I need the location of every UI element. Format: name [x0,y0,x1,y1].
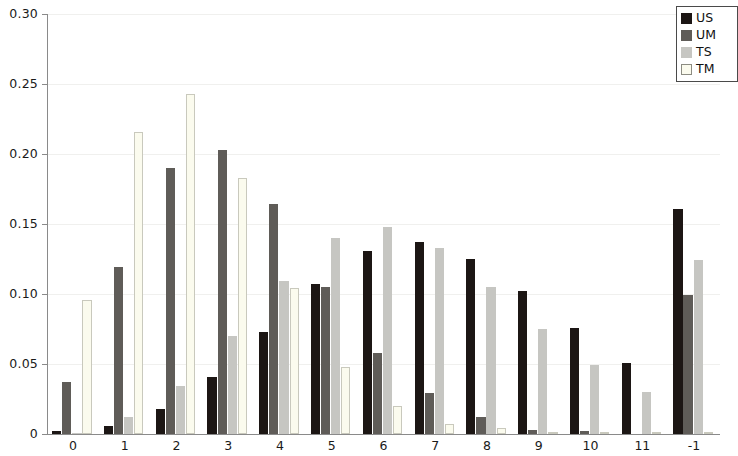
bar-group [466,14,506,434]
bar-ts-4 [279,281,288,434]
bar-ts-9 [538,329,547,434]
bar-us--1 [673,209,682,434]
bar-group [259,14,299,434]
bar-us-9 [518,291,527,434]
bar-tm-9 [548,432,557,434]
series-swatch-um-icon [681,30,692,41]
bar-us-3 [207,377,216,434]
y-tick-mark [42,434,47,435]
bar-um--1 [683,295,692,434]
x-tick-label: 9 [513,440,565,453]
bar-ts-10 [590,365,599,434]
x-tick-label: 7 [409,440,461,453]
bar-group [311,14,351,434]
bar-um-9 [528,430,537,434]
y-tick-label: 0.25 [9,78,38,91]
legend-item-tm[interactable]: TM [681,61,734,78]
bar-group [104,14,144,434]
bar-group [570,14,610,434]
x-tick-label: 1 [99,440,151,453]
bar-tm-8 [497,428,506,434]
x-tick-label: 0 [47,440,99,453]
x-tick-label: 5 [306,440,358,453]
bar-tm-11 [652,432,661,434]
bar-us-4 [259,332,268,434]
y-tick-label: 0.15 [9,218,38,231]
bar-tm-2 [186,94,195,434]
x-tick-label: -1 [668,440,720,453]
bar-us-0 [52,431,61,434]
bar-ts-5 [331,238,340,434]
x-tick-label: 8 [461,440,513,453]
bar-ts-3 [228,336,237,434]
bar-group [52,14,92,434]
bar-um-6 [373,353,382,434]
legend-label: UM [696,29,716,42]
bar-us-7 [415,242,424,434]
bar-us-1 [104,426,113,434]
bar-ts-11 [642,392,651,434]
bar-um-1 [114,267,123,434]
bar-um-4 [269,204,278,434]
bar-um-0 [62,382,71,434]
bar-group [363,14,403,434]
y-tick-label: 0.05 [9,358,38,371]
bar-ts-1 [124,417,133,434]
bar-us-5 [311,284,320,434]
bar-tm-6 [393,406,402,434]
bar-um-5 [321,287,330,434]
bar-us-8 [466,259,475,434]
legend-item-us[interactable]: US [681,10,734,27]
bar-group [156,14,196,434]
bar-ts-0 [72,433,81,434]
plot-area [47,14,720,434]
bar-tm-1 [134,132,143,434]
bar-ts-8 [486,287,495,434]
x-tick-label: 6 [358,440,410,453]
x-tick-label: 3 [202,440,254,453]
bar-tm--1 [704,432,713,434]
bar-group [518,14,558,434]
bar-us-11 [622,363,631,434]
legend-label: TS [696,46,712,59]
bar-ts-2 [176,386,185,434]
bar-tm-5 [341,367,350,434]
bar-ts-7 [435,248,444,434]
legend-label: TM [696,63,714,76]
legend: USUMTSTM [676,6,738,82]
bar-ts--1 [694,260,703,434]
y-tick-label: 0.30 [9,8,38,21]
x-tick-label: 10 [565,440,617,453]
series-swatch-tm-icon [681,64,692,75]
x-tick-label: 11 [616,440,668,453]
bar-um-8 [476,417,485,434]
x-tick-label: 4 [254,440,306,453]
series-swatch-us-icon [681,13,692,24]
y-tick-label: 0.20 [9,148,38,161]
bar-us-10 [570,328,579,434]
bar-um-10 [580,431,589,434]
bar-group [207,14,247,434]
bar-tm-10 [600,432,609,434]
bar-tm-4 [290,288,299,434]
bar-us-2 [156,409,165,434]
bar-ts-6 [383,227,392,434]
legend-label: US [696,12,713,25]
series-swatch-ts-icon [681,47,692,58]
y-tick-label: 0.10 [9,288,38,301]
bar-tm-7 [445,424,454,434]
bar-tm-0 [82,300,91,434]
bar-um-7 [425,393,434,434]
bar-group [415,14,455,434]
bar-group [622,14,662,434]
y-tick-label: 0 [30,428,38,441]
bar-um-2 [166,168,175,434]
bar-us-6 [363,251,372,434]
bar-um-3 [218,150,227,434]
legend-item-um[interactable]: UM [681,27,734,44]
bar-tm-3 [238,178,247,434]
legend-item-ts[interactable]: TS [681,44,734,61]
x-axis-line [47,434,720,435]
x-tick-label: 2 [151,440,203,453]
